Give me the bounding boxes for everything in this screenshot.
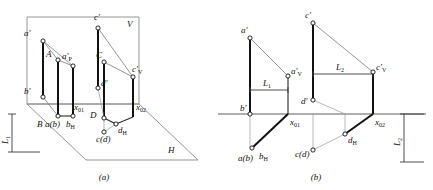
- line-C-to-cvV: [104, 62, 133, 77]
- b-label-L2-horizontal: L2: [335, 62, 344, 73]
- node-c-prime: [96, 26, 100, 30]
- b-label-a-prime: a′: [241, 25, 249, 35]
- label-cd: c(d): [96, 134, 111, 144]
- b-label-d-prime: d′: [301, 96, 309, 106]
- b-node-cd: [311, 148, 315, 152]
- b-label-bH: bH: [259, 151, 269, 162]
- b-label-dH: dH: [348, 135, 358, 146]
- label-apP: a′P: [62, 51, 72, 62]
- label-ab: a(b): [45, 119, 60, 129]
- node-a-prime: [41, 39, 45, 43]
- b-label-x02: x02: [374, 117, 385, 128]
- panel-a-group: a′ c′ A a′P C c′V b′ d′ x01 x02 B a(b) b…: [24, 12, 198, 182]
- node-d-prime: [96, 86, 100, 90]
- b-line-x02-to-dH: [345, 114, 373, 134]
- b-label-cd: c(d): [295, 149, 310, 159]
- node-apP: [71, 64, 75, 68]
- label-D: D: [89, 110, 97, 120]
- node-D: [102, 116, 106, 120]
- caption-a: (a): [99, 172, 110, 182]
- label-plane-H: H: [167, 145, 175, 155]
- node-A: [56, 58, 60, 62]
- node-C: [102, 60, 106, 64]
- figure-root: a′ c′ A a′P C c′V b′ d′ x01 x02 B a(b) b…: [0, 0, 433, 190]
- b-line-x01-to-bH: [252, 114, 288, 148]
- b-line-dH-to-cd: [313, 134, 345, 150]
- label-dH: dH: [118, 125, 128, 136]
- b-label-x01: x01: [289, 117, 300, 128]
- b-node-dH: [343, 132, 347, 136]
- b-node-cvV: [371, 70, 375, 74]
- b-line-c-prime-to-cvV: [313, 23, 373, 72]
- b-label-cvV: c′V: [376, 62, 387, 73]
- b-node-avV: [286, 74, 290, 78]
- b-label-b-prime: b′: [240, 103, 248, 113]
- b-label-c-prime: c′: [305, 10, 312, 20]
- b-line-d-prime-helper: [313, 100, 345, 114]
- label-C: C: [96, 50, 103, 60]
- b-label-ab: a(b): [238, 153, 253, 163]
- line-b-prime-to-ab: [43, 97, 58, 116]
- panel-b-group: a′ c′ a′V c′V b′ d′ x01 x02 a(b) bH c(d)…: [0, 10, 426, 182]
- b-node-d-prime: [311, 98, 315, 102]
- b-label-L2-vertical: L2: [392, 138, 403, 147]
- label-cvV: c′V: [132, 64, 143, 75]
- label-b-prime: b′: [24, 86, 32, 96]
- line-dH-to-x02: [116, 117, 133, 124]
- b-label-L1-horizontal: L1: [262, 78, 271, 89]
- label-x02: x02: [135, 102, 146, 113]
- label-plane-V: V: [127, 19, 134, 29]
- b-line-a-prime-to-avV: [250, 38, 288, 76]
- node-b-prime: [41, 95, 45, 99]
- label-A: A: [45, 49, 52, 59]
- label-B: B: [37, 119, 43, 129]
- b-node-b-prime: [248, 112, 252, 116]
- b-node-c-prime: [311, 21, 315, 25]
- node-cvV: [131, 75, 135, 79]
- node-bH: [71, 114, 75, 118]
- label-bH: bH: [66, 119, 76, 130]
- label-c-prime: c′: [94, 12, 101, 22]
- label-a-prime: a′: [24, 28, 32, 38]
- node-ab: [56, 114, 60, 118]
- b-label-L1-vertical: L1: [0, 136, 11, 145]
- b-node-a-prime: [248, 36, 252, 40]
- technical-drawing-canvas: a′ c′ A a′P C c′V b′ d′ x01 x02 B a(b) b…: [0, 0, 433, 190]
- b-node-bH: [250, 146, 254, 150]
- label-d-prime: d′: [101, 78, 109, 88]
- b-label-avV: a′V: [291, 66, 302, 77]
- caption-b: (b): [311, 172, 322, 182]
